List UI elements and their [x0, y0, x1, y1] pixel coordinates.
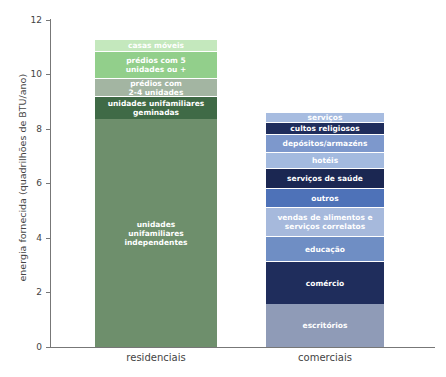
x-category-comerciais: comerciais	[266, 352, 384, 363]
segment-vendas-alimentos: vendas de alimentos e serviços correlato…	[266, 207, 384, 236]
y-tick	[46, 74, 50, 75]
segment-hoteis: hotéis	[266, 152, 384, 168]
y-axis	[50, 19, 51, 348]
stacked-bar-chart: energia fornecida (quadrilhões de BTU/an…	[0, 0, 446, 377]
segment-5-unidades-ou-mais: prédios com 5 unidades ou +	[95, 51, 217, 78]
segment-depositos: depósitos/armazéns	[266, 134, 384, 152]
segment-casas-moveis: casas móveis	[95, 39, 217, 51]
segment-servicos: serviços	[266, 112, 384, 122]
y-tick	[46, 238, 50, 239]
segment-servicos-saude: serviços de saúde	[266, 168, 384, 188]
y-tick-label: 2	[12, 287, 42, 297]
y-tick	[46, 347, 50, 348]
y-tick-label: 10	[12, 69, 42, 79]
segment-independentes: unidades unifamiliares independentes	[95, 119, 217, 347]
y-tick-label: 0	[12, 342, 42, 352]
y-tick-label: 12	[12, 15, 42, 25]
segment-comercio: comércio	[266, 261, 384, 304]
y-tick-label: 8	[12, 124, 42, 134]
segment-cultos-religiosos: cultos religiosos	[266, 122, 384, 134]
segment-geminadas: unidades unifamiliares geminadas	[95, 96, 217, 119]
y-tick	[46, 20, 50, 21]
segment-escritorios: escritórios	[266, 304, 384, 347]
y-tick-label: 4	[12, 233, 42, 243]
segment-outros: outros	[266, 188, 384, 207]
segment-educacao: educação	[266, 236, 384, 261]
x-category-residenciais: residenciais	[95, 352, 217, 363]
y-tick	[46, 292, 50, 293]
bar-residenciais: unidades unifamiliares independentes uni…	[95, 39, 217, 347]
x-axis	[50, 347, 435, 348]
y-tick	[46, 183, 50, 184]
bar-comerciais: escritórios comércio educação vendas de …	[266, 112, 384, 347]
y-tick-label: 6	[12, 178, 42, 188]
segment-2-4-unidades: prédios com 2-4 unidades	[95, 78, 217, 96]
y-tick	[46, 129, 50, 130]
